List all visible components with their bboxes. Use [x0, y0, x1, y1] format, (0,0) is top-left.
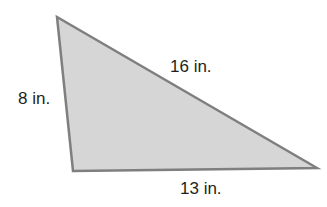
- bottom-side-label: 13 in.: [180, 180, 222, 197]
- hypotenuse-label: 16 in.: [170, 58, 212, 75]
- left-side-label: 8 in.: [18, 90, 50, 107]
- triangle-shape: [57, 17, 317, 171]
